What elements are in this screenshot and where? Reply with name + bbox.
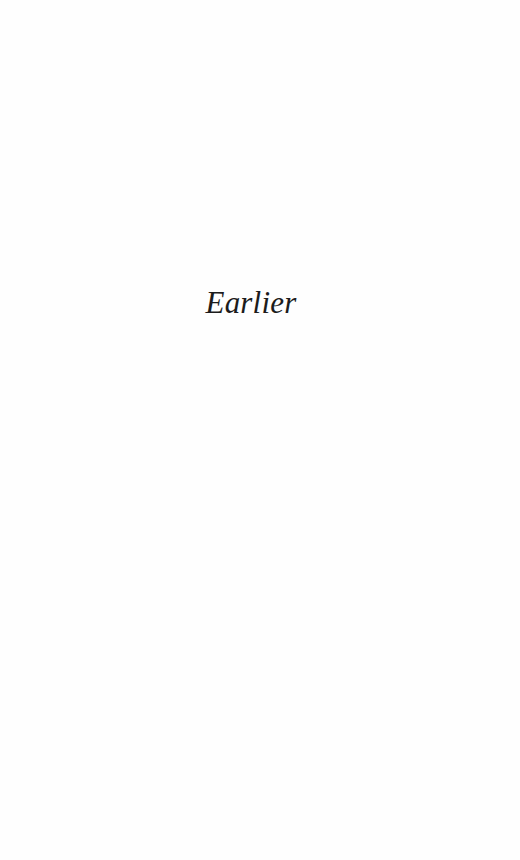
book-page: Earlier <box>0 0 520 860</box>
section-heading: Earlier <box>0 283 502 323</box>
